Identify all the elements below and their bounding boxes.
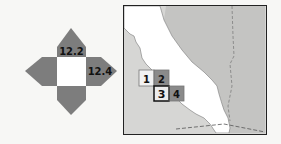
adjacent-sheets-key: 12.2 12.4 — [0, 0, 125, 144]
label-right: 12.4 — [88, 66, 113, 77]
label-top: 12.2 — [59, 46, 84, 57]
tile-2-label: 2 — [158, 74, 165, 85]
arm-bottom — [57, 86, 86, 115]
tile-3-label: 3 — [158, 88, 166, 101]
tile-1-label: 1 — [143, 74, 150, 85]
locator-map: 1 2 3 4 — [123, 5, 267, 135]
arm-left — [25, 57, 57, 86]
center-square — [57, 57, 86, 86]
tile-4-label: 4 — [173, 89, 180, 100]
